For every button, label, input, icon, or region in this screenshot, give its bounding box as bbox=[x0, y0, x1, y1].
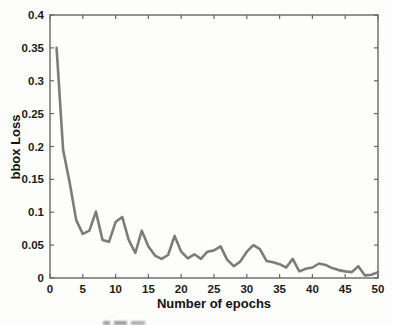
y-tick-label: 0.35 bbox=[0, 41, 44, 55]
x-tick-label: 50 bbox=[363, 283, 393, 295]
plot-box bbox=[50, 15, 378, 278]
axis-ticks bbox=[50, 15, 378, 278]
cropped-caption-artifact bbox=[103, 321, 145, 325]
x-tick-label: 20 bbox=[166, 283, 196, 295]
x-tick-label: 30 bbox=[232, 283, 262, 295]
x-tick-label: 45 bbox=[330, 283, 360, 295]
y-tick-label: 0.15 bbox=[0, 172, 44, 186]
y-tick-label: 0.4 bbox=[0, 8, 44, 22]
y-tick-label: 0.05 bbox=[0, 238, 44, 252]
y-tick-label: 0.25 bbox=[0, 107, 44, 121]
x-tick-label: 10 bbox=[101, 283, 131, 295]
x-tick-label: 5 bbox=[68, 283, 98, 295]
loss-chart-figure: bbox Loss Number of epochs 0510152025303… bbox=[0, 0, 393, 325]
x-tick-label: 15 bbox=[133, 283, 163, 295]
y-tick-label: 0 bbox=[0, 271, 44, 285]
x-axis-title: Number of epochs bbox=[50, 296, 378, 311]
x-tick-label: 25 bbox=[199, 283, 229, 295]
y-tick-label: 0.1 bbox=[0, 205, 44, 219]
chart-canvas bbox=[0, 0, 393, 325]
x-tick-label: 35 bbox=[265, 283, 295, 295]
x-tick-label: 40 bbox=[297, 283, 327, 295]
loss-curve bbox=[57, 48, 378, 276]
y-tick-label: 0.3 bbox=[0, 74, 44, 88]
y-tick-label: 0.2 bbox=[0, 140, 44, 154]
